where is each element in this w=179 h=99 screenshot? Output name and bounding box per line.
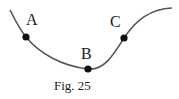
point-a-label: A (26, 12, 38, 28)
point-b-label: B (81, 46, 92, 62)
figure-caption: Fig. 25 (54, 79, 91, 92)
point-a-marker (22, 33, 29, 40)
point-c-label: C (110, 14, 121, 30)
point-b-marker (84, 65, 91, 72)
point-c-marker (120, 34, 127, 41)
